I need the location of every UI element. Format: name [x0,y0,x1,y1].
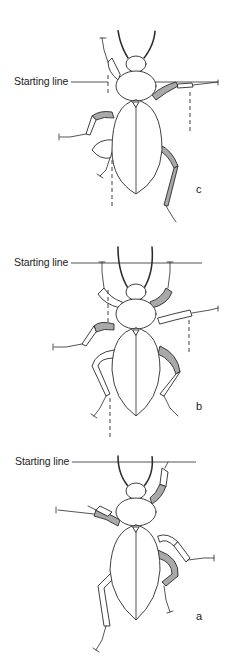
panel-a: Starting line a [0,440,235,670]
panel-c: Starting line c [0,0,235,220]
beetle-drawing-a [0,440,235,670]
panel-b: Starting line b [0,220,235,440]
beetle-drawing-b [0,220,235,440]
beetle-drawing-c [0,0,235,220]
